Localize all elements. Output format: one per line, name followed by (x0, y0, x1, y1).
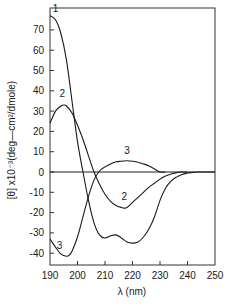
curve-2 (50, 105, 188, 208)
y-tick-label: 40 (33, 85, 45, 96)
x-tick-label: 200 (69, 270, 86, 281)
y-tick-label: 60 (33, 45, 45, 56)
x-tick-label: 220 (124, 270, 141, 281)
x-axis-label: λ (nm) (118, 286, 146, 297)
y-tick-label: 50 (33, 65, 45, 76)
x-axis-ticks: 190200210220230240250 (42, 261, 224, 281)
x-tick-label: 230 (152, 270, 169, 281)
y-tick-label: -20 (30, 207, 45, 218)
curve-label-1: 1 (53, 3, 59, 14)
curve-label-2: 2 (121, 191, 127, 202)
y-tick-label: -30 (30, 227, 45, 238)
x-tick-label: 250 (207, 270, 224, 281)
curve-label-3: 3 (124, 145, 130, 156)
curve-label-3: 3 (57, 240, 63, 251)
curve-1 (50, 16, 215, 243)
x-tick-label: 240 (179, 270, 196, 281)
y-axis-label: [θ] x10⁻³(deg—cm²/dmole) (6, 81, 17, 199)
y-tick-label: 30 (33, 106, 45, 117)
y-tick-label: 20 (33, 126, 45, 137)
y-tick-label: -10 (30, 187, 45, 198)
plot-frame (50, 8, 215, 265)
x-tick-label: 190 (42, 270, 59, 281)
curve-3 (50, 161, 166, 256)
y-tick-label: -40 (30, 248, 45, 259)
x-tick-label: 210 (97, 270, 114, 281)
curve-label-2: 2 (60, 88, 66, 99)
chart-canvas: -40-30-20-10010203040506070 190200210220… (0, 0, 229, 307)
curves (50, 16, 215, 257)
y-tick-label: 0 (38, 167, 44, 178)
y-tick-label: 70 (33, 24, 45, 35)
cd-spectrum-chart: -40-30-20-10010203040506070 190200210220… (0, 0, 229, 307)
y-tick-label: 10 (33, 146, 45, 157)
